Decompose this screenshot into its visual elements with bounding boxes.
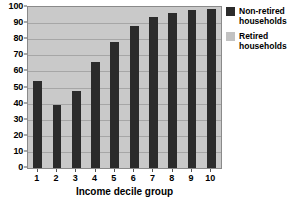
legend-item-retired: Retired households xyxy=(226,31,296,51)
legend-label-retired: Retired households xyxy=(239,31,287,51)
bar-non-retired xyxy=(207,9,216,168)
legend-label-non-retired: Non-retired households xyxy=(239,6,287,26)
x-axis-tick-mark xyxy=(95,169,96,172)
x-axis-tick-mark xyxy=(114,169,115,172)
bar-non-retired xyxy=(130,26,139,168)
y-axis-tick-label: 30 xyxy=(1,114,23,123)
y-axis-tick-label: 100 xyxy=(1,2,23,11)
legend-swatch-non-retired-icon xyxy=(226,7,235,16)
x-axis-tick-label: 10 xyxy=(205,173,215,183)
y-axis-tick-label: 50 xyxy=(1,82,23,91)
y-axis-tick-label: 0 xyxy=(1,163,23,172)
bar-non-retired xyxy=(149,17,158,168)
bar-non-retired xyxy=(188,10,197,168)
x-axis-tick-label: 9 xyxy=(189,173,194,183)
y-axis-tick-label: 60 xyxy=(1,66,23,75)
bar-non-retired xyxy=(168,13,177,168)
bar-non-retired xyxy=(110,42,119,168)
x-axis-tick-label: 5 xyxy=(111,173,116,183)
x-axis-tick-label: 1 xyxy=(34,173,39,183)
x-axis: 12345678910 xyxy=(27,169,222,185)
x-axis-tick-label: 4 xyxy=(92,173,97,183)
x-axis-tick-mark xyxy=(210,169,211,172)
bar-non-retired xyxy=(53,105,62,168)
chart-legend: Non-retired households Retired household… xyxy=(226,6,296,56)
y-axis-tick-label: 80 xyxy=(1,34,23,43)
bar-non-retired xyxy=(91,62,100,168)
x-axis-tick-mark xyxy=(37,169,38,172)
chart-figure: 0102030405060708090100 12345678910 Incom… xyxy=(0,0,296,203)
y-axis-tick-label: 90 xyxy=(1,18,23,27)
x-axis-tick-label: 3 xyxy=(73,173,78,183)
y-axis-tick-label: 10 xyxy=(1,146,23,155)
legend-swatch-retired-icon xyxy=(226,32,235,41)
x-axis-tick-mark xyxy=(152,169,153,172)
legend-item-non-retired: Non-retired households xyxy=(226,6,296,26)
x-axis-tick-label: 6 xyxy=(131,173,136,183)
x-axis-tick-label: 8 xyxy=(169,173,174,183)
x-axis-tick-label: 2 xyxy=(53,173,58,183)
y-axis-tick-label: 40 xyxy=(1,98,23,107)
y-axis-tick-label: 70 xyxy=(1,50,23,59)
plot-area xyxy=(27,6,222,169)
x-axis-label: Income decile group xyxy=(27,186,222,197)
x-axis-tick-mark xyxy=(56,169,57,172)
x-axis-tick-mark xyxy=(133,169,134,172)
x-axis-tick-mark xyxy=(191,169,192,172)
y-axis-tick-label: 20 xyxy=(1,130,23,139)
x-axis-tick-mark xyxy=(172,169,173,172)
x-axis-tick-label: 7 xyxy=(150,173,155,183)
y-axis: 0102030405060708090100 xyxy=(0,0,26,175)
bar-non-retired xyxy=(72,91,81,168)
bar-non-retired xyxy=(33,81,42,168)
x-axis-tick-mark xyxy=(75,169,76,172)
